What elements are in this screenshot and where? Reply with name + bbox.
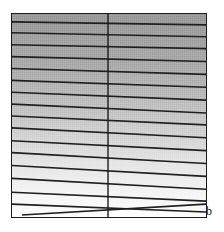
hatch-line [12, 22, 206, 25]
hatch-line [12, 68, 206, 74]
panel-label-b: b [206, 205, 212, 217]
hatch-line [12, 57, 206, 62]
hatch-line [12, 45, 206, 49]
hatch-line [12, 80, 206, 87]
hatch-line-group [12, 22, 206, 215]
hatch-line [12, 141, 206, 151]
hatch-line [12, 153, 206, 164]
figure-root: b [0, 0, 224, 232]
hatch-line [12, 104, 206, 113]
hatch-line [12, 166, 206, 177]
hatch-line [12, 192, 206, 201]
hatch-line-overlay [12, 14, 206, 217]
hatch-line [12, 33, 206, 37]
hatch-line [12, 128, 206, 138]
hatch-line [12, 92, 206, 100]
figure-panel [11, 13, 207, 218]
hatch-line [12, 178, 206, 189]
hatch-line [12, 116, 206, 125]
